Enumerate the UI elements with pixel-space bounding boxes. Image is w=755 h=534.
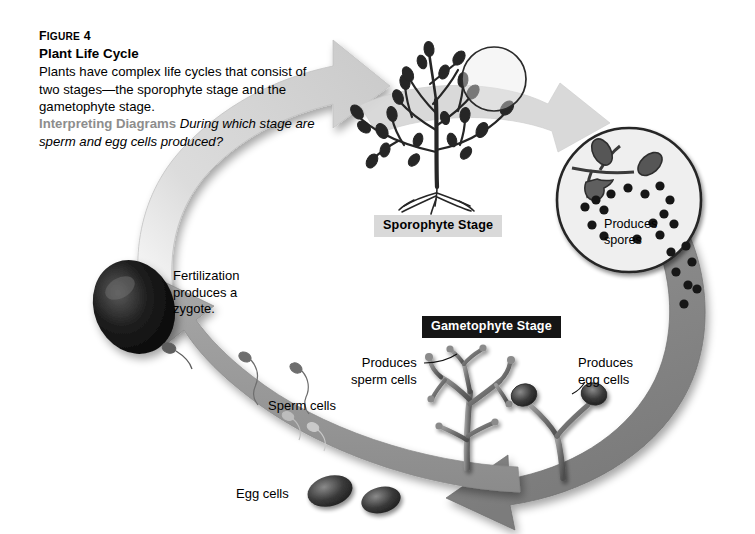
callout-produces-sperm-cells: Produces sperm cells xyxy=(351,355,417,388)
male-gametophyte-illustration xyxy=(425,344,515,468)
figure-description: Plants have complex life cycles that con… xyxy=(39,63,317,115)
stage-label-gametophyte: Gametophyte Stage xyxy=(422,316,561,338)
callout-fertilization: Fertilization produces a zygote. xyxy=(173,268,239,318)
spore-magnifier-circle xyxy=(557,128,701,272)
figure-number-text: FIGURE 4 xyxy=(39,29,91,43)
sperm-at-zygote xyxy=(161,341,192,369)
callout-produces-egg-cells: Produces egg cells xyxy=(578,355,633,388)
magnifier-ring-small xyxy=(462,47,526,111)
figure-caption: FIGURE 4 Plant Life Cycle Plants have co… xyxy=(39,29,317,150)
callout-sperm-cells: Sperm cells xyxy=(268,398,336,415)
callout-egg-cells: Egg cells xyxy=(236,486,289,503)
figure-title: Plant Life Cycle xyxy=(39,46,317,63)
egg-cells-illustration xyxy=(304,470,404,517)
prompt-lead-label: Interpreting Diagrams xyxy=(39,116,176,131)
figure-number: FIGURE 4 xyxy=(39,29,317,44)
callout-produces-spores: Produces spores xyxy=(604,216,657,248)
figure-prompt: Interpreting Diagrams During which stage… xyxy=(39,115,317,150)
stage-label-sporophyte: Sporophyte Stage xyxy=(374,215,502,237)
plant-life-cycle-figure: FIGURE 4 Plant Life Cycle Plants have co… xyxy=(0,0,755,534)
